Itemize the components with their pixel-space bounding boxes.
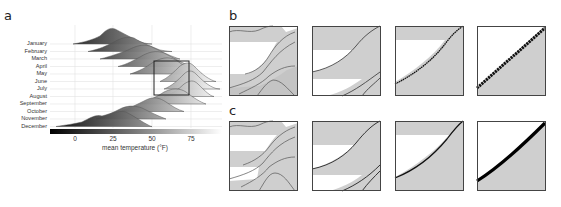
panel-b3 — [395, 26, 464, 96]
panel-c1 — [229, 121, 298, 191]
panel-b1 — [229, 26, 298, 96]
panel-b2 — [312, 26, 381, 96]
panel-c3 — [395, 121, 464, 191]
panel-b4 — [477, 26, 546, 96]
panel-c4 — [477, 121, 546, 191]
panel-c2 — [312, 121, 381, 191]
zoom-panels — [0, 0, 561, 207]
